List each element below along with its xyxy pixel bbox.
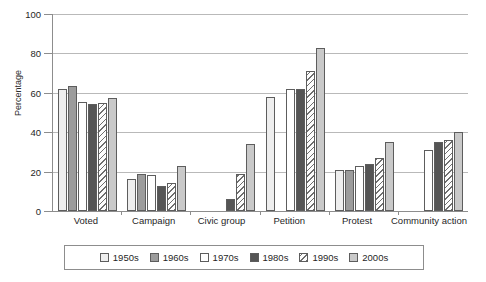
legend-label: 1950s	[113, 252, 139, 263]
bar-group	[261, 14, 330, 211]
bar	[345, 170, 354, 211]
bar	[286, 89, 295, 211]
bar	[296, 89, 305, 211]
legend-item[interactable]: 1950s	[100, 252, 139, 263]
y-axis-tick	[44, 53, 52, 54]
bar	[98, 103, 107, 211]
bar	[137, 174, 146, 211]
y-axis-tick	[44, 132, 52, 133]
bar	[147, 175, 156, 211]
x-axis-label: Community action	[391, 215, 467, 226]
bar-group	[53, 14, 122, 211]
bar	[316, 48, 325, 212]
bar	[375, 158, 384, 211]
y-axis-tick	[44, 93, 52, 94]
y-axis-tick-label: 80	[30, 48, 41, 59]
legend-item[interactable]: 2000s	[349, 252, 388, 263]
legend-swatch-icon	[250, 253, 259, 262]
bar	[157, 186, 166, 211]
y-axis-tick-label: 0	[36, 206, 41, 217]
legend-item[interactable]: 1980s	[250, 252, 289, 263]
y-axis-tick-label: 60	[30, 87, 41, 98]
bar-group	[399, 14, 468, 211]
bar	[266, 97, 275, 211]
y-axis-tick	[44, 172, 52, 173]
legend-item[interactable]: 1960s	[150, 252, 189, 263]
bar	[88, 104, 97, 211]
bar	[306, 71, 315, 211]
x-axis-label: Voted	[52, 215, 120, 226]
y-axis-tick	[44, 14, 52, 15]
x-axis-label: Protest	[323, 215, 391, 226]
bar	[355, 166, 364, 211]
bar	[236, 174, 245, 211]
legend-swatch-icon	[349, 253, 358, 262]
bar-groups	[53, 14, 468, 211]
bar	[226, 199, 235, 211]
bar	[365, 164, 374, 211]
bar	[385, 142, 394, 211]
y-axis-tick-label: 100	[25, 9, 41, 20]
bar	[424, 150, 433, 211]
bar	[68, 86, 77, 211]
bar	[58, 89, 67, 211]
legend-label: 2000s	[362, 252, 388, 263]
bar	[444, 140, 453, 211]
y-axis-title: Percentage	[13, 53, 23, 133]
x-axis-label: Petition	[255, 215, 323, 226]
y-axis-tick-label: 40	[30, 127, 41, 138]
bar	[335, 170, 344, 211]
x-axis-labels: VotedCampaignCivic groupPetitionProtestC…	[52, 215, 467, 226]
legend-item[interactable]: 1990s	[299, 252, 338, 263]
bar-chart: Percentage 020406080100 VotedCampaignCiv…	[0, 0, 486, 282]
bar-group	[191, 14, 260, 211]
legend-label: 1960s	[163, 252, 189, 263]
y-axis-tick-label: 20	[30, 166, 41, 177]
bar	[78, 102, 87, 211]
legend-swatch-icon	[200, 253, 209, 262]
legend-swatch-icon	[100, 253, 109, 262]
x-axis-label: Civic group	[188, 215, 256, 226]
bar	[177, 166, 186, 211]
legend-item[interactable]: 1970s	[200, 252, 239, 263]
bar	[246, 144, 255, 211]
bar	[167, 183, 176, 211]
bar	[127, 179, 136, 211]
bar	[108, 98, 117, 211]
bar	[454, 132, 463, 211]
chart-legend: 1950s1960s1970s1980s1990s2000s	[64, 245, 424, 270]
y-axis-tick	[44, 211, 52, 212]
legend-label: 1980s	[263, 252, 289, 263]
legend-swatch-icon	[150, 253, 159, 262]
legend-label: 1970s	[213, 252, 239, 263]
bar-group	[330, 14, 399, 211]
x-axis-label: Campaign	[120, 215, 188, 226]
bar	[434, 142, 443, 211]
bar-group	[122, 14, 191, 211]
legend-swatch-icon	[299, 253, 308, 262]
plot-area: 020406080100	[52, 14, 468, 212]
legend-label: 1990s	[312, 252, 338, 263]
